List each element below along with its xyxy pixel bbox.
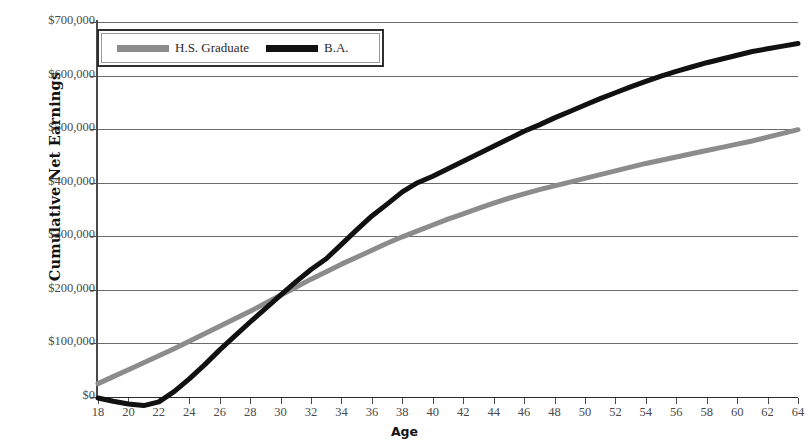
- x-tick-mark: [615, 398, 616, 404]
- y-tick-label: $200,000: [9, 281, 95, 296]
- x-tick-label: 30: [266, 405, 296, 420]
- x-tick-label: 36: [357, 405, 387, 420]
- x-tick-mark: [402, 398, 403, 404]
- x-tick-mark: [555, 398, 556, 404]
- x-tick-mark: [707, 398, 708, 404]
- x-tick-label: 44: [479, 405, 509, 420]
- x-tick-mark: [768, 398, 769, 404]
- x-tick-label: 64: [783, 405, 809, 420]
- x-tick-mark: [646, 398, 647, 404]
- y-tick-label: $0: [9, 388, 95, 403]
- x-tick-label: 46: [509, 405, 539, 420]
- chart-legend: H.S. Graduate B.A.: [97, 29, 384, 67]
- x-tick-label: 28: [235, 405, 265, 420]
- legend-swatch-ba: [266, 45, 318, 52]
- x-tick-label: 40: [418, 405, 448, 420]
- legend-label-hs-graduate: H.S. Graduate: [175, 40, 249, 56]
- x-tick-label: 18: [83, 405, 113, 420]
- y-tick-label: $100,000: [9, 334, 95, 349]
- x-tick-label: 42: [448, 405, 478, 420]
- x-tick-mark: [798, 398, 799, 404]
- x-tick-mark: [281, 398, 282, 404]
- x-tick-label: 62: [753, 405, 783, 420]
- x-tick-mark: [433, 398, 434, 404]
- x-tick-mark: [463, 398, 464, 404]
- y-tick-label: $300,000: [9, 227, 95, 242]
- legend-label-ba: B.A.: [324, 40, 349, 56]
- x-tick-label: 54: [631, 405, 661, 420]
- x-tick-label: 56: [661, 405, 691, 420]
- x-tick-label: 38: [387, 405, 417, 420]
- x-tick-label: 22: [144, 405, 174, 420]
- x-tick-mark: [341, 398, 342, 404]
- x-tick-label: 32: [296, 405, 326, 420]
- series-line-b-a: [98, 43, 798, 405]
- x-tick-label: 58: [692, 405, 722, 420]
- x-tick-mark: [250, 398, 251, 404]
- x-tick-mark: [311, 398, 312, 404]
- x-axis-title: Age: [0, 424, 809, 439]
- y-tick-label: $400,000: [9, 174, 95, 189]
- axis-baseline: [98, 397, 798, 398]
- series-lines: [98, 22, 798, 397]
- legend-item-hs-graduate[interactable]: H.S. Graduate: [117, 40, 249, 56]
- legend-swatch-hs-graduate: [117, 45, 169, 52]
- x-tick-label: 52: [600, 405, 630, 420]
- x-tick-label: 26: [205, 405, 235, 420]
- x-tick-mark: [524, 398, 525, 404]
- x-tick-mark: [372, 398, 373, 404]
- x-tick-mark: [737, 398, 738, 404]
- y-tick-label: $700,000: [9, 13, 95, 28]
- x-tick-mark: [585, 398, 586, 404]
- x-tick-label: 34: [326, 405, 356, 420]
- x-tick-label: 24: [174, 405, 204, 420]
- legend-item-ba[interactable]: B.A.: [266, 40, 349, 56]
- y-tick-label: $600,000: [9, 67, 95, 82]
- x-tick-mark: [676, 398, 677, 404]
- x-tick-label: 50: [570, 405, 600, 420]
- x-tick-label: 48: [540, 405, 570, 420]
- x-tick-mark: [220, 398, 221, 404]
- x-tick-label: 60: [722, 405, 752, 420]
- cumulative-net-earnings-chart: Cumulative Net Earnings Age $0$100,000$2…: [0, 0, 809, 444]
- x-tick-mark: [189, 398, 190, 404]
- y-tick-label: $500,000: [9, 120, 95, 135]
- x-tick-mark: [494, 398, 495, 404]
